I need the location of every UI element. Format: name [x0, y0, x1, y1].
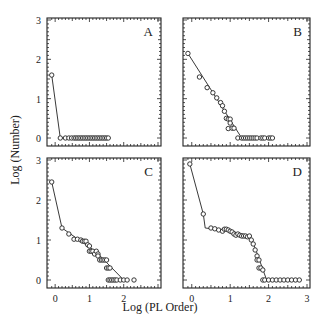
x-tick-label: 1 [87, 293, 92, 304]
axis-ticks [183, 158, 310, 288]
data-points [50, 180, 137, 282]
y-tick-label: 1 [36, 235, 41, 246]
y-tick-label: 0 [36, 133, 41, 144]
panel-label: C [144, 164, 153, 179]
data-point [201, 212, 205, 216]
data-point [220, 104, 224, 108]
data-point [50, 73, 54, 77]
panel-label: D [293, 164, 302, 179]
data-point [297, 278, 301, 282]
panel-frame [183, 18, 310, 146]
data-point [188, 162, 192, 166]
panel-label: B [293, 24, 302, 39]
data-point [261, 268, 265, 272]
data-point [222, 109, 226, 113]
figure: 0123AB0123012C0123D Log (Number) Log (PL… [0, 0, 326, 330]
data-point [251, 242, 255, 246]
x-axis-label: Log (PL Order) [123, 300, 198, 314]
panels: 0123AB0123012C0123D [36, 15, 310, 304]
data-point [257, 258, 261, 262]
data-point [132, 278, 136, 282]
data-points [186, 51, 275, 140]
data-point [232, 126, 236, 130]
y-axis-label: Log (Number) [8, 115, 22, 185]
data-point [186, 51, 190, 55]
data-point [215, 96, 219, 100]
y-tick-label: 3 [36, 155, 41, 166]
data-points [50, 73, 111, 140]
x-tick-label: 0 [53, 293, 58, 304]
data-point [197, 75, 201, 79]
y-tick-label: 1 [36, 94, 41, 105]
data-point [253, 248, 257, 252]
data-point [106, 136, 110, 140]
data-point [270, 136, 274, 140]
data-point [211, 91, 215, 95]
panel-a: 0123A [36, 15, 161, 146]
data-point [205, 85, 209, 89]
axis-ticks [183, 18, 310, 146]
data-point [60, 226, 64, 230]
panel-b: B [183, 18, 310, 146]
x-tick-label: 3 [305, 293, 310, 304]
panel-d: 0123D [183, 158, 310, 304]
y-tick-label: 3 [36, 15, 41, 26]
panel-label: A [144, 24, 154, 39]
x-tick-label: 2 [266, 293, 271, 304]
data-point [108, 266, 112, 270]
fit-line [190, 164, 299, 280]
data-point [58, 136, 62, 140]
fit-line [52, 75, 109, 138]
x-tick-label: 1 [228, 293, 233, 304]
y-tick-label: 0 [36, 275, 41, 286]
data-point [228, 121, 232, 125]
data-point [125, 278, 129, 282]
panel-frame [183, 158, 310, 288]
fit-line [52, 182, 124, 280]
panel-c: 0123012C [36, 155, 161, 304]
data-point [104, 258, 108, 262]
data-point [87, 244, 91, 248]
y-tick-label: 2 [36, 54, 41, 65]
y-tick-label: 2 [36, 195, 41, 206]
data-point [67, 232, 71, 236]
data-point [50, 180, 54, 184]
